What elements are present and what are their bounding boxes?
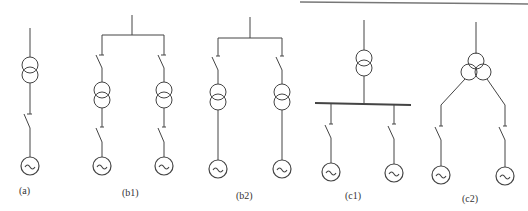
panel-label-a: (a) — [19, 185, 30, 196]
panel-label-c1: (c1) — [345, 190, 361, 201]
panel-label-b2: (b2) — [236, 190, 253, 201]
wiring-diagram — [0, 0, 528, 211]
panel-label-c2: (c2) — [462, 193, 478, 204]
panel-c1-diagram — [315, 20, 411, 182]
panel-b1-diagram — [93, 15, 173, 175]
panel-b2-diagram — [209, 17, 291, 178]
panel-label-b1: (b1) — [122, 187, 139, 198]
panel-c2-diagram — [432, 22, 514, 185]
panel-a-diagram — [21, 28, 39, 175]
